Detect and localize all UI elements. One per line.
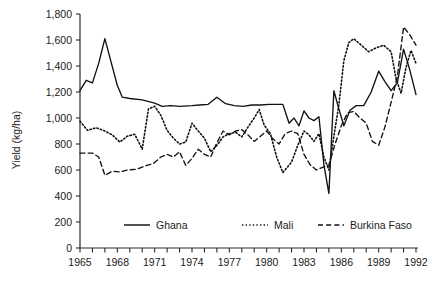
y-tick-label: 1,800 <box>46 8 72 20</box>
legend-label-ghana: Ghana <box>156 219 188 231</box>
yield-line-chart: Yield (kg/ha) 02004006008001,0001,2001,4… <box>0 0 432 281</box>
x-tick-label: 1974 <box>180 256 204 268</box>
y-tick-label: 1,200 <box>46 86 72 98</box>
y-tick-label: 400 <box>54 190 72 202</box>
y-tick-label: 200 <box>54 216 72 228</box>
legend-label-burkina-faso: Burkina Faso <box>350 219 412 231</box>
y-tick-label: 1,600 <box>46 34 72 46</box>
x-tick-label: 1971 <box>143 256 167 268</box>
x-tick-label: 1986 <box>330 256 354 268</box>
y-tick-label: 1,000 <box>46 112 72 124</box>
x-tick-label: 1968 <box>106 256 130 268</box>
x-axis-tick-marks <box>80 248 416 253</box>
x-tick-label: 1977 <box>218 256 242 268</box>
y-tick-label: 600 <box>54 164 72 176</box>
x-tick-label: 1965 <box>68 256 92 268</box>
y-axis-tick-labels: 02004006008001,0001,2001,4001,6001,800 <box>46 8 72 254</box>
x-tick-label: 1992 <box>404 256 428 268</box>
y-tick-label: 800 <box>54 138 72 150</box>
chart-canvas: Yield (kg/ha) 02004006008001,0001,2001,4… <box>0 0 432 281</box>
x-tick-label: 1989 <box>367 256 391 268</box>
y-axis-title: Yield (kg/ha) <box>10 111 22 170</box>
x-axis-tick-labels: 1965196819711974197719801983198619891992 <box>68 256 428 268</box>
y-tick-label: 0 <box>66 242 72 254</box>
chart-legend: GhanaMaliBurkina Faso <box>124 219 412 231</box>
y-tick-label: 1,400 <box>46 60 72 72</box>
series-group <box>80 27 416 193</box>
x-tick-label: 1983 <box>292 256 316 268</box>
x-tick-label: 1980 <box>255 256 279 268</box>
y-axis-title-group: Yield (kg/ha) <box>10 111 22 170</box>
legend-label-mali: Mali <box>274 219 293 231</box>
